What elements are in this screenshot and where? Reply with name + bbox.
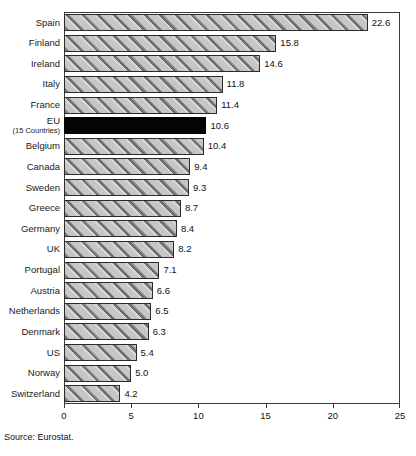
bar-value-label: 5.0 [131,368,148,378]
bar-value-label: 9.3 [189,183,206,193]
bar-row: Sweden9.3 [0,177,416,198]
x-tick-label: 25 [395,410,406,421]
x-tick-label: 15 [260,410,271,421]
bar-container: 7.1 [64,262,159,279]
bar-eu [64,117,206,134]
bar-row: Switzerland4.2 [0,383,416,404]
bar-spain [64,14,368,31]
bar-france [64,97,217,114]
bar-container: 4.2 [64,385,120,402]
x-tick [64,404,65,408]
x-axis: 0510152025 [64,404,400,426]
bar-netherlands [64,303,151,320]
category-label-canada: Canada [0,162,60,172]
bar-value-label: 5.4 [137,348,154,358]
x-tick [266,404,267,408]
bar-value-label: 10.4 [204,141,227,151]
source-note: Source: Eurostat. [4,432,74,443]
bar-germany [64,220,177,237]
bar-row: Netherlands6.5 [0,301,416,322]
bar-value-label: 15.8 [276,38,299,48]
category-label-denmark: Denmark [0,327,60,337]
bar-row: EU(15 Countries)10.6 [0,115,416,136]
bar-portugal [64,262,159,279]
category-label-eu: EU(15 Countries) [0,116,60,135]
bar-belgium [64,138,204,155]
bar-row: Spain22.6 [0,12,416,33]
category-label-uk: UK [0,244,60,254]
bar-value-label: 8.4 [177,224,194,234]
bar-sweden [64,179,189,196]
category-label-ireland: Ireland [0,59,60,69]
bar-container: 10.6 [64,117,206,134]
bar-container: 15.8 [64,35,276,52]
category-sublabel: (15 Countries) [0,126,60,135]
bar-value-label: 4.2 [120,389,137,399]
bar-container: 6.5 [64,303,151,320]
bar-container: 22.6 [64,14,368,31]
bar-row: Ireland14.6 [0,53,416,74]
x-tick [399,404,400,408]
category-label-portugal: Portugal [0,265,60,275]
bar-row: Germany8.4 [0,218,416,239]
x-tick-label: 0 [61,410,66,421]
x-tick-label: 20 [328,410,339,421]
bar-container: 11.4 [64,97,217,114]
bar-us [64,344,137,361]
category-label-italy: Italy [0,79,60,89]
bar-container: 5.4 [64,344,137,361]
bar-row: Greece8.7 [0,198,416,219]
bar-container: 8.4 [64,220,177,237]
bar-italy [64,76,223,93]
category-label-switzerland: Switzerland [0,389,60,399]
category-label-spain: Spain [0,18,60,28]
bar-value-label: 6.5 [151,306,168,316]
bar-container: 11.8 [64,76,223,93]
bar-container: 8.2 [64,241,174,258]
bar-container: 6.6 [64,282,153,299]
bar-value-label: 8.2 [174,244,191,254]
bar-value-label: 8.7 [181,203,198,213]
bar-row: France11.4 [0,95,416,116]
bar-switzerland [64,385,120,402]
bar-row: Denmark6.3 [0,321,416,342]
bar-container: 10.4 [64,138,204,155]
bar-denmark [64,323,149,340]
bar-rows: Spain22.6Finland15.8Ireland14.6Italy11.8… [0,12,416,404]
category-label-germany: Germany [0,224,60,234]
bar-finland [64,35,276,52]
category-label-france: France [0,100,60,110]
bar-ireland [64,55,260,72]
bar-container: 8.7 [64,200,181,217]
category-label-sweden: Sweden [0,183,60,193]
category-label-austria: Austria [0,286,60,296]
category-label-belgium: Belgium [0,141,60,151]
bar-value-label: 11.8 [223,79,245,89]
x-tick [333,404,334,408]
bar-row: Belgium10.4 [0,136,416,157]
bar-row: US5.4 [0,342,416,363]
x-tick [198,404,199,408]
bar-container: 14.6 [64,55,260,72]
bar-row: Norway5.0 [0,363,416,384]
bar-austria [64,282,153,299]
bar-value-label: 9.4 [190,162,207,172]
bar-uk [64,241,174,258]
bar-container: 5.0 [64,365,131,382]
bar-norway [64,365,131,382]
bar-row: Italy11.8 [0,74,416,95]
bar-row: Canada9.4 [0,156,416,177]
bar-row: Portugal7.1 [0,260,416,281]
x-tick [131,404,132,408]
bar-value-label: 10.6 [206,121,229,131]
bar-row: UK8.2 [0,239,416,260]
category-label-us: US [0,348,60,358]
bar-container: 9.4 [64,158,190,175]
bar-greece [64,200,181,217]
bar-row: Austria6.6 [0,280,416,301]
x-tick-label: 5 [129,410,134,421]
bar-value-label: 7.1 [159,265,176,275]
category-label-finland: Finland [0,38,60,48]
bar-canada [64,158,190,175]
bar-container: 9.3 [64,179,189,196]
